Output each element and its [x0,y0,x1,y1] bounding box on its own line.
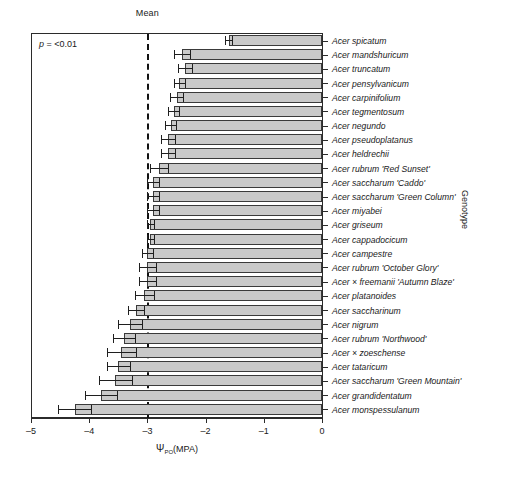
error-cap-upper [192,64,193,73]
category-label: Acer rubrum 'Red Sunset' [332,164,430,174]
category-label-row: Acer × freemanii 'Autumn Blaze' [323,275,454,289]
error-bar [170,97,183,98]
bars-layer [31,34,322,417]
error-cap-lower [128,306,129,315]
x-tick-label: –2 [186,426,226,436]
category-tick [323,83,328,84]
bar [75,404,322,415]
bar [121,347,322,358]
category-label: Acer saccharum 'Green Column' [332,192,456,202]
psi-subscript: PO [164,449,173,455]
category-label: Acer miyabei [332,206,382,216]
error-bar [107,352,136,353]
bar [130,319,322,330]
error-bar [128,310,144,311]
bar [159,163,322,174]
category-label-row: Acer tataricum [323,360,387,374]
bar-row [31,147,322,161]
error-cap-upper [144,306,145,315]
bar [168,148,322,159]
error-cap-upper [153,249,154,258]
error-cap-lower [174,50,175,59]
error-cap-upper [175,135,176,144]
category-label-row: Acer cappadocicum [323,233,407,247]
error-cap-upper [91,405,92,414]
category-label: Acer grandidentatum [332,391,412,401]
bar [185,63,322,74]
category-label-row: Acer miyabei [323,204,382,218]
category-label: Acer truncatum [332,64,390,74]
category-label-row: Acer rubrum 'Red Sunset' [323,162,430,176]
category-label-row: Acer platanoides [323,289,396,303]
bar [144,290,322,301]
x-tick-label: –1 [244,426,284,436]
category-label-row: Acer × zoeschense [323,346,405,360]
error-cap-lower [142,249,143,258]
error-bar [147,239,154,240]
category-tick [323,225,328,226]
x-tick [206,418,207,423]
error-bar [107,366,130,367]
error-cap-lower [139,263,140,272]
category-tick [323,154,328,155]
category-tick [323,211,328,212]
bar [124,333,322,344]
x-tick [147,418,148,423]
bar-row [31,374,322,388]
error-cap-lower [58,405,59,414]
bar-row [31,105,322,119]
category-tick [323,367,328,368]
category-tick [323,239,328,240]
x-tick [264,418,265,423]
category-label-row: Acer heldrechii [323,147,389,161]
bar [229,35,322,46]
error-cap-lower [147,220,148,229]
x-axis-units: (MPA) [173,444,198,454]
error-cap-lower [165,121,166,130]
error-cap-upper [185,79,186,88]
error-bar [225,40,232,41]
bar-row [31,48,322,62]
error-bar [168,111,180,112]
error-cap-lower [174,79,175,88]
category-tick [323,267,328,268]
bar-row [31,62,322,76]
bar [174,106,322,117]
category-tick [323,253,328,254]
category-tick [323,126,328,127]
x-tick-label: –4 [69,426,109,436]
category-label: Acer monspessulanum [332,405,419,415]
category-tick [323,55,328,56]
bar-row [31,176,322,190]
bar [150,234,322,245]
bar [168,134,322,145]
error-cap-upper [179,107,180,116]
bar-row [31,77,322,91]
error-cap-upper [159,178,160,187]
bar-row [31,318,322,332]
category-label-row: Acer grandidentatum [323,389,412,403]
bar [147,248,322,259]
error-bar [139,281,155,282]
category-tick [323,353,328,354]
category-label: Acer saccharum 'Green Mountain' [332,376,461,386]
error-bar [174,54,190,55]
category-label-row: Acer carpinifolium [323,91,400,105]
category-label-row: Acer monspessulanum [323,403,419,417]
bar-row [31,162,322,176]
x-tick [31,418,32,423]
error-cap-lower [147,235,148,244]
bar-row [31,332,322,346]
error-bar [150,168,169,169]
error-cap-lower [150,164,151,173]
x-tick-label: –3 [127,426,167,436]
error-bar [147,182,159,183]
error-cap-upper [130,362,131,371]
error-cap-lower [135,291,136,300]
category-tick [323,197,328,198]
error-cap-upper [232,36,233,45]
bar-row [31,119,322,133]
category-tick [323,182,328,183]
error-cap-lower [161,135,162,144]
error-bar [99,380,132,381]
